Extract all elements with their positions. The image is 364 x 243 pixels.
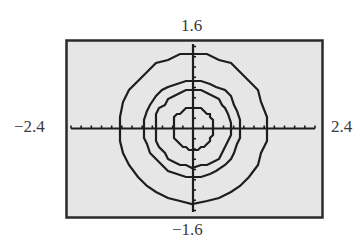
calculator-graph-screen bbox=[0, 0, 364, 243]
